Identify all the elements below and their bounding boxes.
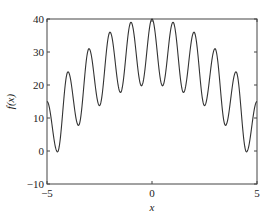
x-tick-label: 0 [149, 187, 155, 199]
x-axis-label: x [149, 201, 155, 213]
y-tick-label: 10 [33, 112, 45, 124]
y-axis-label: f(x) [4, 94, 17, 110]
y-tick-label: 0 [39, 145, 45, 157]
x-tick-label: 5 [254, 187, 260, 199]
y-axis-ticks: −10010203040 [27, 13, 257, 190]
y-tick-label: 40 [33, 13, 45, 25]
line-chart: −10010203040 −505 x f(x) [0, 0, 267, 218]
plot-frame [47, 19, 257, 184]
x-tick-label: −5 [41, 187, 53, 199]
x-axis-ticks: −505 [41, 19, 260, 199]
data-line [47, 19, 257, 152]
y-tick-label: 20 [33, 79, 45, 91]
y-tick-label: 30 [33, 46, 45, 58]
